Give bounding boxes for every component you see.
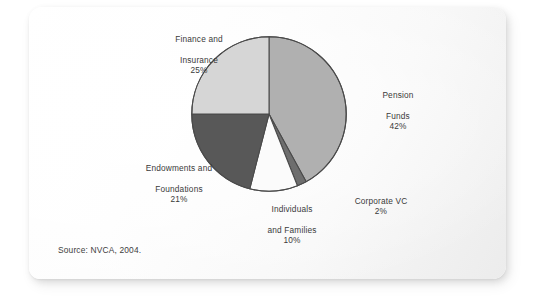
pie-label-corpvc-percent: 2% xyxy=(339,206,423,217)
pie-label-endow-percent: 21% xyxy=(125,194,233,205)
pie-label-individ-text2: and Families xyxy=(267,225,316,235)
source-note: Source: NVCA, 2004. xyxy=(58,245,141,255)
pie-label-finance-percent: 25% xyxy=(151,65,247,76)
pie-label-individ-text: Individuals xyxy=(271,204,312,214)
pie-label-pension-funds: Pension Funds 42% xyxy=(363,79,433,143)
pie-label-endowments-and-foundations: Endowments and Foundations 21% xyxy=(125,152,233,216)
pie-label-individ-percent: 10% xyxy=(251,235,333,246)
pie-label-finance-text2: Insurance xyxy=(180,55,218,65)
pie-label-endow-text2: Foundations xyxy=(155,184,203,194)
figure-card: Finance and Insurance 25% Pension Funds … xyxy=(29,7,506,279)
pie-label-pension-percent: 42% xyxy=(363,121,433,132)
pie-label-corpvc-text: Corporate VC xyxy=(355,196,408,206)
pie-label-corporate-vc: Corporate VC 2% xyxy=(339,185,423,227)
pie-label-endow-text: Endowments and xyxy=(146,163,212,173)
pie-label-pension-text2: Funds xyxy=(386,111,410,121)
pie-label-pension-text: Pension xyxy=(382,90,413,100)
pie-label-finance-text: Finance and xyxy=(175,34,223,44)
figure-root: Finance and Insurance 25% Pension Funds … xyxy=(0,0,535,302)
pie-chart: Finance and Insurance 25% Pension Funds … xyxy=(29,7,506,279)
pie-label-individuals-and-families: Individuals and Families 10% xyxy=(251,193,333,257)
pie-label-finance-and-insurance: Finance and Insurance 25% xyxy=(151,23,247,87)
